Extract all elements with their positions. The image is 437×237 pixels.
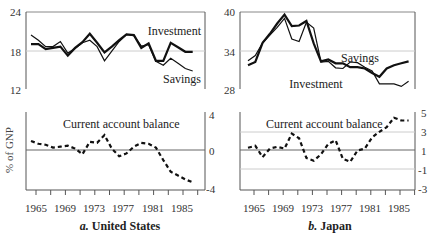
y-tick-neg3: -3 [418, 183, 428, 195]
y-tick-0: 0 [209, 145, 215, 157]
jp-savings-line [248, 15, 409, 77]
figure: 24 18 12 Investment Savings 4 0 -4 Curre… [0, 0, 437, 237]
x-tick-1981: 1981 [142, 202, 164, 214]
us-investment-label: Investment [148, 24, 202, 38]
jp-investment-label: Investment [289, 77, 343, 91]
x-tick-1977: 1977 [330, 202, 353, 214]
jp-savings-investment-panel: 40 34 28 Savings Investment [224, 6, 415, 96]
y-tick-1: 1 [421, 145, 427, 157]
y-tick-34: 34 [224, 46, 236, 58]
y-tick-24: 24 [10, 6, 22, 18]
x-tick-1973: 1973 [301, 202, 324, 214]
jp-savings-label: Savings [341, 51, 379, 65]
x-tick-1973: 1973 [83, 202, 106, 214]
y-tick-neg4: -4 [206, 183, 216, 195]
us-current-account-line [31, 135, 193, 182]
y-tick-5: 5 [421, 107, 427, 119]
y-tick-neg1: -1 [418, 164, 427, 176]
y-tick-18: 18 [10, 46, 22, 58]
x-tick-1965: 1965 [243, 202, 266, 214]
x-tick-1977: 1977 [112, 202, 135, 214]
y-tick-12: 12 [10, 84, 21, 96]
x-tick-1981: 1981 [359, 202, 381, 214]
y-tick-40: 40 [224, 6, 236, 18]
jp-current-account-panel: 5 3 1 -1 -3 Current account balance 1965… [240, 107, 428, 233]
us-savings-investment-panel: 24 18 12 Investment Savings [10, 6, 205, 96]
caption-b: b. Japan [308, 219, 352, 233]
y-tick-4: 4 [209, 109, 215, 121]
caption-a: a. United States [80, 219, 161, 233]
x-tick-1969: 1969 [54, 202, 77, 214]
x-tick-1965: 1965 [25, 202, 48, 214]
us-current-account-panel: 4 0 -4 Current account balance 1965 1969… [3, 109, 216, 233]
y-axis-title: % of GNP [3, 127, 15, 173]
x-tick-1985: 1985 [388, 202, 411, 214]
us-savings-line [31, 35, 193, 72]
jp-x-ticks [254, 190, 415, 195]
us-x-ticks [36, 190, 198, 195]
us-savings-label: Savings [163, 72, 201, 86]
x-tick-1985: 1985 [171, 202, 194, 214]
y-tick-3: 3 [421, 126, 427, 138]
x-tick-1969: 1969 [272, 202, 295, 214]
jp-current-account-label: Current account balance [266, 117, 383, 131]
us-current-account-label: Current account balance [63, 117, 180, 131]
y-tick-28: 28 [224, 84, 236, 96]
